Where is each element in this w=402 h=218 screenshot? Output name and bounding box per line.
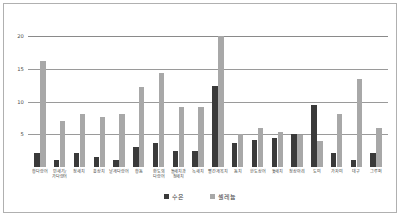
x-axis-label: 가자미 [327,169,347,189]
bar-selenium[interactable] [40,61,45,167]
bar-selenium[interactable] [139,87,144,167]
bar-mercury[interactable] [34,153,39,167]
bar-mercury[interactable] [192,151,197,167]
bar-mercury[interactable] [232,143,237,167]
bar-mercury[interactable] [252,140,257,167]
bar-group[interactable] [248,36,268,167]
bar-group[interactable] [89,36,109,167]
bar-selenium[interactable] [198,107,203,167]
legend-swatch-icon [164,194,169,199]
chart-legend: 수은셀레늄 [4,192,396,201]
x-axis-labels: 황다랑어민새기/가다랑어청새치홍상치날개다랑어황돔환도의 다랑어돌새치과 청새치… [28,169,388,189]
bar-group[interactable] [267,36,287,167]
bar-selenium[interactable] [278,132,283,167]
chart-frame: 5101520 황다랑어민새기/가다랑어청새치홍상치날개다랑어황돔환도의 다랑어… [3,3,397,213]
x-axis-label: 그루퍼 [366,169,386,189]
bar-selenium[interactable] [357,79,362,167]
bar-group[interactable] [188,36,208,167]
bar-mercury[interactable] [94,157,99,167]
bar-selenium[interactable] [179,107,184,167]
legend-label: 셀레늄 [218,192,236,201]
bar-mercury[interactable] [153,143,158,167]
bar-mercury[interactable] [74,153,79,167]
bar-selenium[interactable] [297,135,302,167]
bar-selenium[interactable] [100,117,105,167]
bar-group[interactable] [30,36,50,167]
y-axis-tick-15: 15 [17,66,24,72]
bar-mercury[interactable] [291,134,296,167]
bar-group[interactable] [50,36,70,167]
x-axis-label: 민새기/가다랑어 [50,169,70,189]
bar-group[interactable] [168,36,188,167]
bar-selenium[interactable] [119,114,124,167]
bar-mercury[interactable] [311,105,316,167]
bar-mercury[interactable] [54,160,59,167]
bar-selenium[interactable] [258,128,263,167]
bar-mercury[interactable] [272,138,277,167]
x-axis-label: 날개다랑어 [109,169,129,189]
bar-group[interactable] [208,36,228,167]
bar-mercury[interactable] [212,86,217,167]
x-axis-label: 돌새치과 청새치 [169,169,189,189]
x-axis-label: 한도상어 [248,169,268,189]
bar-group[interactable] [307,36,327,167]
bar-group[interactable] [70,36,90,167]
x-axis-label: 녹새치 [188,169,208,189]
bar-mercury[interactable] [370,153,375,167]
x-axis-label: 청새치 [69,169,89,189]
x-axis-label: 도미 [307,169,327,189]
y-axis-tick-5: 5 [21,131,24,137]
x-axis-label: 돛새치 [268,169,288,189]
y-axis-tick-10: 10 [17,99,24,105]
legend-item-se[interactable]: 셀레늄 [210,192,236,201]
bar-group[interactable] [129,36,149,167]
x-axis-label: 황돔 [129,169,149,189]
legend-swatch-icon [210,194,215,199]
bar-mercury[interactable] [133,147,138,167]
x-axis-label: 환도의 다랑어 [149,169,169,189]
x-axis-label: 황다랑어 [30,169,50,189]
x-axis-label: 홍상치 [89,169,109,189]
bar-selenium[interactable] [317,141,322,167]
bar-mercury[interactable] [351,160,356,167]
bar-group[interactable] [109,36,129,167]
x-axis-label: 청상아리 [287,169,307,189]
bar-selenium[interactable] [376,128,381,167]
legend-item-hg[interactable]: 수은 [164,192,184,201]
x-axis-label: 돔치 [228,169,248,189]
bar-group[interactable] [347,36,367,167]
y-axis-tick-20: 20 [17,33,24,39]
bar-group[interactable] [228,36,248,167]
bar-selenium[interactable] [80,114,85,167]
x-axis-label: 빨간개복치 [208,169,228,189]
bar-group[interactable] [366,36,386,167]
bar-selenium[interactable] [238,134,243,167]
bar-group[interactable] [327,36,347,167]
bar-selenium[interactable] [218,36,223,167]
plot-wrap: 5101520 [28,36,388,167]
bar-selenium[interactable] [337,114,342,167]
bar-group[interactable] [149,36,169,167]
bar-group[interactable] [287,36,307,167]
bar-mercury[interactable] [331,153,336,167]
x-axis-label: 대구 [347,169,367,189]
bar-selenium[interactable] [159,73,164,167]
legend-label: 수은 [172,192,184,201]
bar-mercury[interactable] [173,151,178,167]
bar-selenium[interactable] [60,121,65,168]
bars-container [28,36,388,167]
bar-mercury[interactable] [113,160,118,167]
